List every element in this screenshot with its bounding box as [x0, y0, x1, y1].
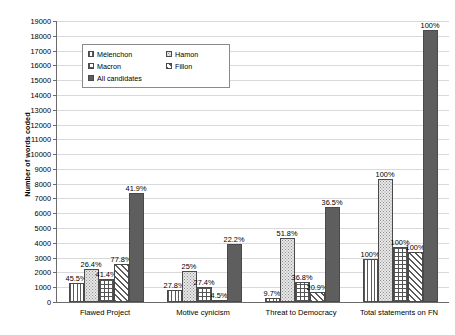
x-axis-category-label: Motive cynicism: [154, 308, 252, 317]
bar[interactable]: 20.9%: [310, 292, 325, 302]
x-axis-category-label: Flawed Project: [56, 308, 154, 317]
legend-label-melenchon: Mélenchon: [97, 50, 132, 59]
legend-row: All candidates: [88, 72, 225, 84]
bar[interactable]: 27.8%: [167, 290, 182, 302]
bar-value-label: 26.4%: [81, 260, 102, 269]
legend-swatch-icon-all-candidates: [88, 75, 94, 81]
bar[interactable]: 100%: [423, 30, 438, 302]
legend-row: Mélenchon Hamon: [88, 48, 225, 60]
legend-label-macron: Macron: [97, 62, 121, 71]
bar[interactable]: 77.8%: [114, 264, 129, 302]
legend-swatch-icon-fillon: [166, 63, 172, 69]
legend-label-fillon: Fillon: [175, 62, 192, 71]
y-axis-tick-label: 0: [7, 298, 51, 307]
y-axis-tick-label: 5000: [7, 224, 51, 233]
y-axis-tick-label: 11000: [7, 135, 51, 144]
y-axis-tick-label: 6000: [7, 209, 51, 218]
bar[interactable]: 100%: [393, 247, 408, 302]
bar[interactable]: 36.5%: [325, 207, 340, 302]
bar-value-label: 22.2%: [224, 235, 245, 244]
y-axis-tick-label: 12000: [7, 120, 51, 129]
y-axis-tick-label: 8000: [7, 179, 51, 188]
x-axis-labels: Flawed ProjectMotive cynicismThreat to D…: [56, 308, 448, 317]
bar-value-label: 41.9%: [126, 184, 147, 193]
bar-value-label: 9.7%: [264, 289, 281, 298]
legend-item-fillon: Fillon: [166, 62, 192, 71]
bar[interactable]: 4.5%: [212, 300, 227, 302]
legend-item-all-candidates: All candidates: [88, 74, 166, 83]
bar-group: 100%100%100%100%100%: [351, 21, 449, 302]
legend-label-all-candidates: All candidates: [97, 74, 142, 83]
bar-chart: Number of words coded 010002000300040005…: [0, 0, 455, 335]
bar-value-label: 25%: [182, 262, 197, 271]
y-axis-tick-label: 15000: [7, 76, 51, 85]
bar[interactable]: 51.8%: [280, 238, 295, 302]
y-axis-tick-label: 4000: [7, 238, 51, 247]
y-axis-tick-label: 7000: [7, 194, 51, 203]
bar-value-label: 27.4%: [194, 278, 215, 287]
bar[interactable]: 100%: [408, 252, 423, 302]
bar-value-label: 100%: [376, 170, 395, 179]
y-axis-tick: [53, 302, 57, 303]
legend-swatch-icon-hamon: [166, 51, 172, 57]
bar[interactable]: 41.4%: [99, 279, 114, 302]
bar-value-label: 100%: [421, 21, 440, 30]
bar[interactable]: 45.5%: [69, 283, 84, 302]
y-axis-tick-label: 19000: [7, 17, 51, 26]
bar[interactable]: 100%: [363, 259, 378, 302]
x-axis-category-label: Threat to Democracy: [252, 308, 350, 317]
bar[interactable]: 27.4%: [197, 287, 212, 302]
bar[interactable]: 9.7%: [265, 298, 280, 302]
bar[interactable]: 22.2%: [227, 244, 242, 302]
y-axis-tick-label: 9000: [7, 164, 51, 173]
legend-swatch-icon-macron: [88, 63, 94, 69]
y-axis-tick-label: 13000: [7, 105, 51, 114]
bar-value-label: 51.8%: [277, 229, 298, 238]
legend-row: Macron Fillon: [88, 60, 225, 72]
y-axis-tick-label: 3000: [7, 253, 51, 262]
y-axis-tick-label: 18000: [7, 31, 51, 40]
legend-item-melenchon: Mélenchon: [88, 50, 166, 59]
y-axis-tick-label: 17000: [7, 46, 51, 55]
bar-group: 9.7%51.8%36.8%20.9%36.5%: [253, 21, 351, 302]
y-axis-tick-label: 2000: [7, 268, 51, 277]
legend-item-macron: Macron: [88, 62, 166, 71]
legend-swatch-icon-melenchon: [88, 51, 94, 57]
y-axis-tick-label: 16000: [7, 61, 51, 70]
y-axis-tick-label: 14000: [7, 90, 51, 99]
bar[interactable]: 41.9%: [129, 193, 144, 302]
bar-value-label: 36.8%: [292, 273, 313, 282]
y-axis-tick-label: 1000: [7, 283, 51, 292]
chart-legend: Mélenchon Hamon Macron Fillon All candid…: [82, 44, 230, 88]
legend-label-hamon: Hamon: [175, 50, 198, 59]
legend-item-hamon: Hamon: [166, 50, 198, 59]
bar-value-label: 36.5%: [322, 198, 343, 207]
y-axis-tick-label: 10000: [7, 150, 51, 159]
x-axis-category-label: Total statements on FN: [350, 308, 448, 317]
bar-value-label: 4.5%: [211, 291, 228, 300]
